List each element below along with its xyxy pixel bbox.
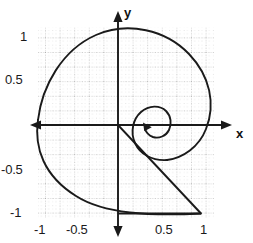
grid (38, 27, 214, 218)
y-tick-neg0_5: -0.5 (1, 162, 23, 177)
x-tick-1: 1 (200, 222, 207, 237)
y-axis-label: y (124, 5, 131, 20)
y-tick-0_5: 0.5 (5, 72, 22, 87)
plot-canvas (0, 0, 253, 243)
y-tick-1: 1 (20, 29, 27, 44)
y-tick-neg1: -1 (10, 205, 21, 220)
x-tick-neg0_5: -0.5 (66, 222, 88, 237)
figure-container: 1 0.5 -0.5 -1 -1 -0.5 0.5 1 y x (0, 0, 253, 243)
x-axis-label: x (236, 126, 243, 141)
x-tick-neg1: -1 (34, 222, 45, 237)
x-tick-0_5: 0.5 (155, 222, 172, 237)
